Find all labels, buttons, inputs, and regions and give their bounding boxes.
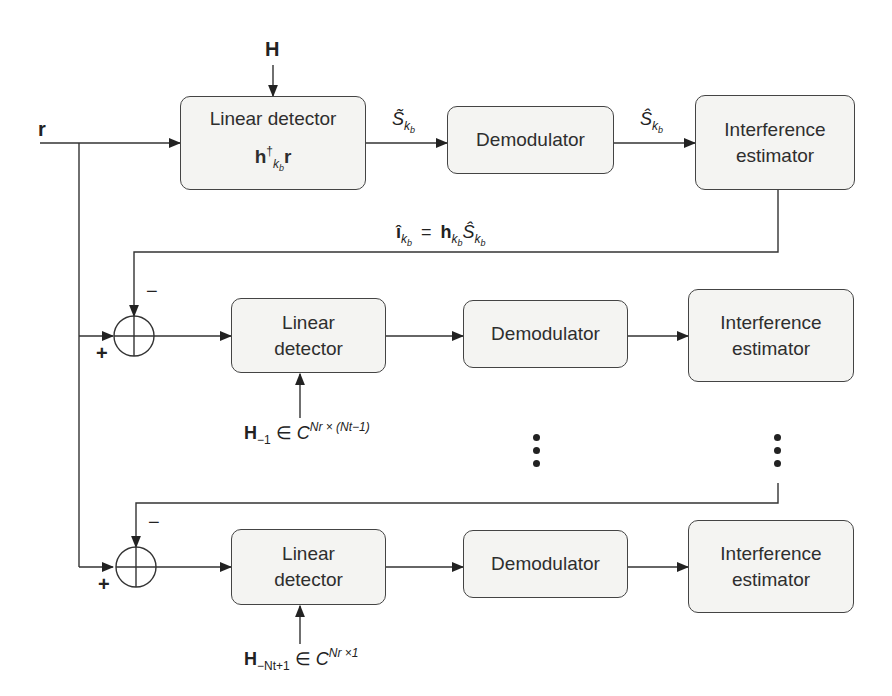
row3-sum-plus: +	[98, 573, 110, 596]
row3-demodulator-title: Demodulator	[491, 551, 600, 577]
row2-ie-line2: estimator	[732, 336, 810, 362]
input-H-label: H	[265, 38, 279, 61]
ellipsis-dots-demod	[533, 434, 541, 473]
row3-ld-line1: Linear	[282, 541, 335, 567]
input-r-label: r	[38, 118, 46, 141]
row1-interference-estimator[interactable]: Interference estimator	[695, 95, 855, 190]
row1-ie-line1: Interference	[724, 117, 825, 143]
row1-edge2-label: Ŝkb	[640, 109, 663, 135]
ellipsis-dots-estimator	[774, 434, 782, 473]
row2-demodulator-title: Demodulator	[491, 321, 600, 347]
row2-sum-minus: −	[146, 280, 158, 303]
row3-ld-line2: detector	[274, 567, 343, 593]
row3-demodulator[interactable]: Demodulator	[463, 530, 628, 598]
row2-ie-line1: Interference	[720, 310, 821, 336]
row3-sum-minus: −	[148, 511, 160, 534]
row2-channel-label: H−1 ∈ CNr × (Nt−1)	[244, 420, 370, 447]
row1-linear-detector-formula: h†kbr	[255, 138, 292, 181]
row1-feedback-label: îkb = hkbŜkb	[396, 222, 486, 248]
row1-demodulator-title: Demodulator	[476, 127, 585, 153]
row3-linear-detector[interactable]: Linear detector	[231, 529, 386, 605]
row1-ie-line2: estimator	[736, 143, 814, 169]
row2-sum-plus: +	[96, 342, 108, 365]
row3-ie-line2: estimator	[732, 567, 810, 593]
row1-edge1-label: S̃kb	[392, 109, 415, 135]
row3-channel-label: H−Nt+1 ∈ CNr ×1	[244, 646, 358, 673]
row1-linear-detector-title: Linear detector	[210, 106, 337, 132]
row2-ld-line1: Linear	[282, 310, 335, 336]
row3-interference-estimator[interactable]: Interference estimator	[688, 520, 854, 613]
row2-demodulator[interactable]: Demodulator	[463, 300, 628, 368]
row3-ie-line1: Interference	[720, 541, 821, 567]
row1-demodulator[interactable]: Demodulator	[447, 106, 614, 174]
row2-linear-detector[interactable]: Linear detector	[231, 298, 386, 373]
row2-interference-estimator[interactable]: Interference estimator	[688, 289, 854, 382]
row1-linear-detector[interactable]: Linear detector h†kbr	[180, 96, 366, 190]
row2-ld-line2: detector	[274, 336, 343, 362]
